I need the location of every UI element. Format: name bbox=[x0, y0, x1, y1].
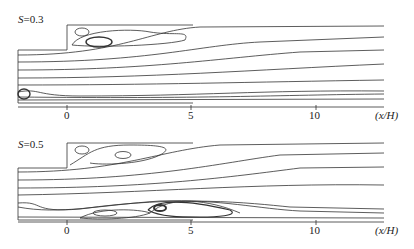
streamline-plot bbox=[0, 0, 414, 125]
x-tick: 10 bbox=[309, 109, 320, 121]
x-axis-label: (x/H) bbox=[375, 224, 398, 236]
x-axis-label: (x/H) bbox=[375, 109, 398, 121]
panel-s03: S=0.3 0 5 1 bbox=[0, 0, 414, 125]
x-tick: 10 bbox=[309, 224, 320, 236]
x-tick: 0 bbox=[64, 109, 70, 121]
x-tick: 5 bbox=[188, 109, 194, 121]
x-tick: 5 bbox=[188, 224, 194, 236]
x-tick: 0 bbox=[64, 224, 70, 236]
streamline-plot bbox=[0, 125, 414, 249]
panel-s05: S=0.5 0 bbox=[0, 125, 414, 249]
